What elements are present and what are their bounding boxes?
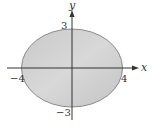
tick-label-y-top: 3 xyxy=(61,20,67,31)
ellipse-diagram: x y 3 −3 −4 4 xyxy=(0,0,157,127)
tick-label-x-right: 4 xyxy=(121,73,127,84)
x-axis-label: x xyxy=(141,61,148,74)
tick-label-x-left: −4 xyxy=(10,73,25,84)
tick-label-y-bottom: −3 xyxy=(56,107,71,118)
x-axis-arrow-icon xyxy=(132,66,139,71)
y-axis-label: y xyxy=(68,0,76,12)
